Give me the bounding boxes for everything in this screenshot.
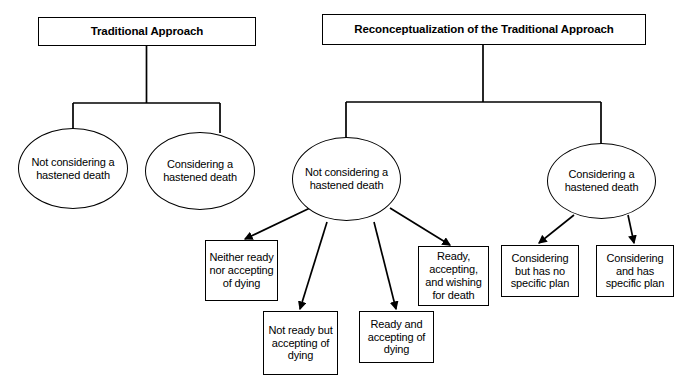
leaf-label-ready-accepting-wishing: Ready, accepting, and wishing for death xyxy=(421,250,486,302)
ellipse-recon-considering: Considering a hastened death xyxy=(547,143,656,219)
ellipse-traditional-not-considering: Not considering a hastened death xyxy=(18,128,128,209)
header-label-reconceptualization: Reconceptualization of the Traditional A… xyxy=(323,23,645,37)
leaf-box-not-ready-but-accepting: Not ready but accepting of dying xyxy=(263,311,338,375)
ellipse-label-traditional-considering: Considering a hastened death xyxy=(146,158,254,184)
header-box-reconceptualization: Reconceptualization of the Traditional A… xyxy=(322,14,646,45)
ellipse-label-recon-not-considering: Not considering a hastened death xyxy=(293,166,400,192)
header-box-traditional: Traditional Approach xyxy=(38,17,256,46)
leaf-label-considering-has-plan: Considering and has specific plan xyxy=(599,252,671,291)
ellipse-recon-not-considering: Not considering a hastened death xyxy=(292,137,401,221)
ellipse-traditional-considering: Considering a hastened death xyxy=(145,132,255,210)
leaf-box-considering-has-plan: Considering and has specific plan xyxy=(596,245,674,297)
header-label-traditional: Traditional Approach xyxy=(39,25,255,39)
leaf-box-ready-accepting-wishing: Ready, accepting, and wishing for death xyxy=(418,246,489,306)
leaf-box-neither-ready-nor-accepting: Neither ready nor accepting of dying xyxy=(205,240,278,301)
leaf-box-considering-no-plan: Considering but has no specific plan xyxy=(501,245,579,297)
leaf-box-ready-and-accepting: Ready and accepting of dying xyxy=(359,311,434,363)
leaf-label-not-ready-but-accepting: Not ready but accepting of dying xyxy=(266,324,335,363)
ellipse-label-traditional-not-considering: Not considering a hastened death xyxy=(19,156,127,182)
diagram-canvas: Traditional Approach Reconceptualization… xyxy=(0,0,692,392)
leaf-label-considering-no-plan: Considering but has no specific plan xyxy=(504,252,576,291)
ellipse-label-recon-considering: Considering a hastened death xyxy=(548,168,655,194)
leaf-label-ready-and-accepting: Ready and accepting of dying xyxy=(362,318,431,357)
leaf-label-neither-ready-nor-accepting: Neither ready nor accepting of dying xyxy=(208,251,275,290)
